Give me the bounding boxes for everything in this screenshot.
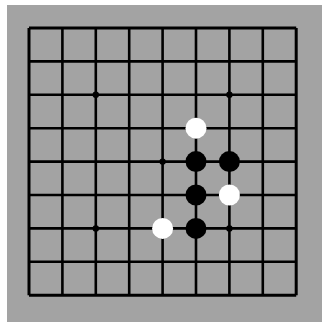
board-grid[interactable] (0, 0, 334, 331)
star-point (226, 92, 232, 98)
black-stone[interactable] (186, 151, 207, 172)
black-stone[interactable] (186, 218, 207, 239)
black-stone[interactable] (219, 151, 240, 172)
white-stone[interactable] (186, 118, 207, 139)
star-point (226, 225, 232, 231)
black-stone[interactable] (186, 185, 207, 206)
star-point (93, 225, 99, 231)
white-stone[interactable] (219, 185, 240, 206)
star-point (159, 158, 165, 164)
star-point (93, 92, 99, 98)
white-stone[interactable] (152, 218, 173, 239)
